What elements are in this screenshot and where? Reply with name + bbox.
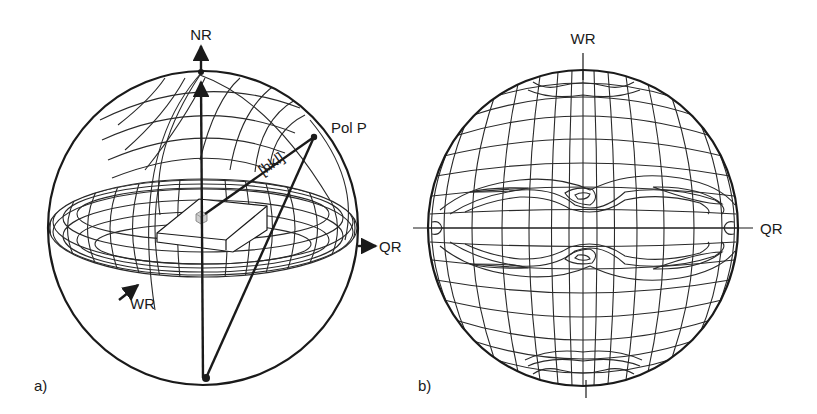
wr-label-b: WR [571, 30, 596, 47]
pole-figure-diagram: NR Pol P [hkl] QR WR a) [0, 0, 817, 414]
sample-plate [157, 199, 267, 252]
nr-label: NR [190, 26, 212, 43]
south-pole-point [202, 374, 210, 382]
hkl-label: [hkl] [255, 149, 287, 179]
qr-label-a: QR [379, 238, 402, 255]
qr-label-b: QR [760, 220, 783, 237]
panel-b-pole-figure: WR QR b) [413, 30, 783, 398]
pole-label: Pol P [331, 119, 367, 136]
panel-b-label: b) [418, 377, 431, 394]
panel-a-sphere: NR Pol P [hkl] QR WR a) [34, 26, 402, 394]
panel-a-label: a) [34, 377, 47, 394]
wr-label-a: WR [130, 295, 155, 312]
nr-axis [201, 82, 203, 378]
pole-point [311, 134, 317, 140]
